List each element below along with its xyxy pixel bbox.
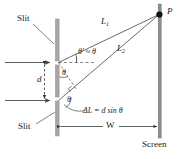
- path-L2-subscript: 2: [122, 48, 125, 54]
- figure-root: Slit Slit d L1 L2 θ′ ≈ θ θ θ P ΔL = d si…: [0, 0, 188, 159]
- screen-label: Screen: [142, 140, 167, 149]
- width-label: W: [106, 121, 115, 130]
- path-line-L2: [59, 15, 160, 101]
- diagram-canvas: [0, 0, 188, 159]
- point-p-label: P: [167, 7, 173, 16]
- right-angle-marker: [68, 86, 71, 92]
- separation-label: d: [37, 75, 42, 84]
- path-L1-label: L1: [101, 17, 109, 27]
- slit-bottom-leader: [36, 112, 55, 124]
- angle-theta-upper-label: θ: [62, 69, 66, 77]
- slit-bottom-label: Slit: [18, 122, 31, 131]
- path-L1-subscript: 1: [106, 21, 109, 27]
- barrier-upper: [56, 19, 60, 61]
- angle-theta-lower-label: θ: [67, 96, 71, 104]
- angle-theta-prime-label: θ′ ≈ θ: [78, 48, 96, 56]
- barrier-lower: [56, 101, 60, 136]
- path-difference-label: ΔL = d sin θ: [83, 107, 123, 115]
- screen-bar: [158, 4, 161, 138]
- slit-top-label: Slit: [17, 14, 30, 23]
- path-L2-label: L2: [117, 44, 125, 54]
- slit-top-leader: [33, 24, 54, 44]
- barrier-middle: [56, 65, 60, 97]
- point-p-marker: [156, 11, 162, 17]
